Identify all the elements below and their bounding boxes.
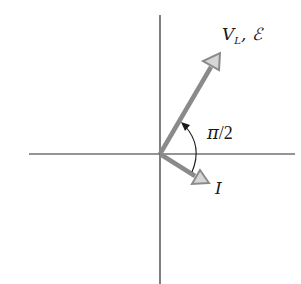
current-phasor <box>160 154 209 184</box>
phasor-diagram: VL, ℰ I π/2 <box>0 0 301 284</box>
angle-arc <box>181 122 196 172</box>
current-label: I <box>214 178 222 198</box>
voltage-label: VL, ℰ <box>222 24 264 46</box>
angle-label: π/2 <box>206 122 233 143</box>
current-arrowhead-icon <box>192 170 209 184</box>
